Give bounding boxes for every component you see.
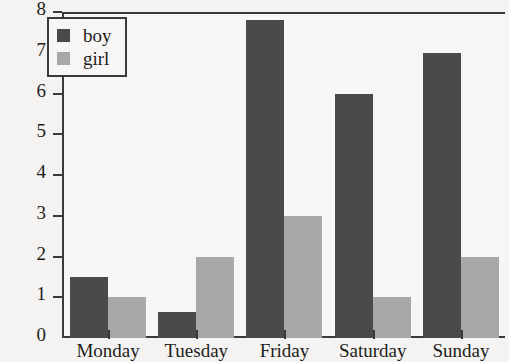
legend-label-boy: boy bbox=[83, 26, 112, 45]
y-tick-label: 3 bbox=[37, 203, 47, 222]
bar-group bbox=[329, 12, 417, 338]
y-tick-mark bbox=[53, 174, 62, 176]
legend-item: boy bbox=[57, 24, 112, 47]
y-tick-label: 2 bbox=[37, 244, 47, 263]
x-axis-label-sunday: Sunday bbox=[417, 340, 505, 362]
y-tick-mark bbox=[53, 215, 62, 217]
y-tick-mark bbox=[53, 256, 62, 258]
bars-layer bbox=[64, 12, 505, 338]
x-tick-mark bbox=[108, 330, 110, 339]
legend-swatch-girl-icon bbox=[57, 52, 70, 65]
y-tick-mark bbox=[53, 11, 62, 13]
y-tick-label: 8 bbox=[37, 0, 47, 18]
x-axis-label-monday: Monday bbox=[64, 340, 152, 362]
y-tick-mark bbox=[53, 93, 62, 95]
y-tick-label: 7 bbox=[37, 40, 47, 59]
bar-girl-saturday bbox=[373, 297, 411, 338]
y-tick-mark bbox=[53, 296, 62, 298]
bar-boy-sunday bbox=[423, 53, 461, 338]
x-axis-label-saturday: Saturday bbox=[329, 340, 417, 362]
bar-chart: 012345678 MondayTuesdayFridaySaturdaySun… bbox=[0, 0, 509, 362]
legend-label-girl: girl bbox=[83, 49, 109, 68]
bar-boy-tuesday bbox=[158, 312, 196, 338]
x-tick-mark bbox=[284, 330, 286, 339]
x-axis-labels: MondayTuesdayFridaySaturdaySunday bbox=[0, 340, 509, 362]
y-tick-label: 5 bbox=[37, 121, 47, 140]
x-axis-label-friday: Friday bbox=[240, 340, 328, 362]
x-tick-mark bbox=[461, 330, 463, 339]
bar-boy-monday bbox=[70, 277, 108, 338]
bar-group bbox=[417, 12, 505, 338]
bar-boy-friday bbox=[246, 20, 284, 338]
bar-girl-friday bbox=[284, 216, 322, 338]
bar-group bbox=[152, 12, 240, 338]
y-tick-label: 4 bbox=[37, 162, 47, 181]
bar-girl-tuesday bbox=[196, 257, 234, 339]
bar-boy-saturday bbox=[335, 94, 373, 339]
legend-item: girl bbox=[57, 47, 112, 70]
bar-girl-monday bbox=[108, 297, 146, 338]
x-axis-label-tuesday: Tuesday bbox=[152, 340, 240, 362]
y-tick-label: 6 bbox=[37, 81, 47, 100]
bar-group bbox=[240, 12, 328, 338]
x-tick-mark bbox=[196, 330, 198, 339]
x-tick-mark bbox=[373, 330, 375, 339]
legend-swatch-boy-icon bbox=[57, 29, 70, 42]
y-tick-label: 1 bbox=[37, 284, 47, 303]
y-tick-mark bbox=[53, 133, 62, 135]
legend: boy girl bbox=[47, 17, 127, 77]
bar-girl-sunday bbox=[461, 257, 499, 339]
